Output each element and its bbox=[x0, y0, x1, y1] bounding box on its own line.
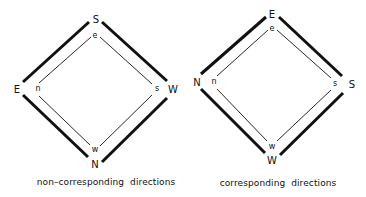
left-outer-right-label: W bbox=[168, 85, 178, 95]
left-inner-bottom-label: w bbox=[92, 146, 99, 154]
right-outer-bottom-label: W bbox=[267, 156, 277, 166]
right-outer-top-label: E bbox=[269, 10, 275, 20]
right-outer-left-label: N bbox=[193, 78, 200, 88]
left-outer-diamond bbox=[23, 22, 167, 162]
right-caption: corresponding directions bbox=[220, 179, 337, 188]
left-caption: non–corresponding directions bbox=[37, 178, 175, 187]
right-outer-diamond bbox=[201, 17, 343, 155]
left-outer-left-label: E bbox=[14, 85, 20, 95]
right-inner-left-label: n bbox=[211, 78, 216, 86]
right-inner-right-label: s bbox=[333, 80, 337, 88]
right-inner-bottom-label: w bbox=[269, 143, 276, 151]
left-outer-top-label: S bbox=[93, 15, 99, 25]
left-outer-bottom-label: N bbox=[91, 160, 98, 170]
left-inner-right-label: s bbox=[155, 85, 159, 93]
right-outer-right-label: S bbox=[349, 80, 355, 90]
left-inner-top-label: e bbox=[93, 32, 98, 40]
left-inner-left-label: n bbox=[35, 85, 40, 93]
right-inner-top-label: e bbox=[270, 25, 275, 33]
diagram-canvas bbox=[0, 0, 366, 197]
